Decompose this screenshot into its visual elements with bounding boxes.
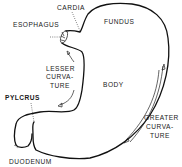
label-greater-curvature-3: TURE xyxy=(150,132,170,139)
pylorus-pointer xyxy=(31,103,34,122)
label-lesser-curvature-2: CURVA- xyxy=(46,73,74,80)
label-duodenum: DUODENUM xyxy=(9,158,52,165)
label-fundus: FUNDUS xyxy=(104,18,135,25)
label-lesser-curvature-3: TURE xyxy=(50,82,70,89)
cardia-pointer xyxy=(72,12,80,31)
stomach-diagram: CARDIA ESOPHAGUS FUNDUS LESSER CURVA- TU… xyxy=(0,0,182,167)
label-greater-curvature-1: GREATER xyxy=(144,114,179,121)
label-pylorus: PYLCRUS xyxy=(5,94,40,101)
label-greater-curvature-2: CURVA- xyxy=(146,123,174,130)
label-cardia: CARDIA xyxy=(57,4,85,11)
label-body: BODY xyxy=(103,81,124,88)
label-esophagus: ESOPHAGUS xyxy=(13,21,59,28)
label-lesser-curvature-1: LESSER xyxy=(46,65,75,72)
esophagus-icon xyxy=(59,30,69,44)
diagram-svg: CARDIA ESOPHAGUS FUNDUS LESSER CURVA- TU… xyxy=(0,0,182,167)
duodenum-outline xyxy=(16,134,32,147)
